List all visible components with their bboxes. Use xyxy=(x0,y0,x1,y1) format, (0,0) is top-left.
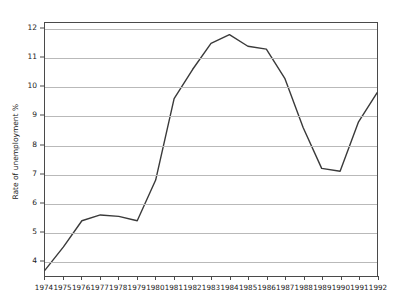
x-tick-label-1988: 1988 xyxy=(295,284,313,291)
x-tick-label-1991: 1991 xyxy=(350,284,368,291)
x-tick-mark-1979 xyxy=(137,276,138,280)
y-tick-label-6: 6 xyxy=(32,199,37,207)
series-polyline-unemployment xyxy=(45,35,377,271)
gridline-y-6 xyxy=(45,204,377,205)
x-tick-label-1987: 1987 xyxy=(276,284,294,291)
x-tick-label-1985: 1985 xyxy=(239,284,257,291)
y-tick-label-5: 5 xyxy=(32,228,37,236)
y-axis: 456789101112 xyxy=(0,0,44,297)
gridline-y-9 xyxy=(45,116,377,117)
x-tick-label-1981: 1981 xyxy=(165,284,183,291)
gridline-y-10 xyxy=(45,87,377,88)
y-tick-label-10: 10 xyxy=(27,82,37,90)
x-tick-mark-1982 xyxy=(192,276,193,280)
x-tick-label-1979: 1979 xyxy=(128,284,146,291)
y-tick-label-8: 8 xyxy=(32,141,37,149)
gridline-y-4 xyxy=(45,262,377,263)
x-tick-mark-1978 xyxy=(118,276,119,280)
x-tick-label-1986: 1986 xyxy=(258,284,276,291)
x-tick-mark-1988 xyxy=(304,276,305,280)
gridline-y-7 xyxy=(45,175,377,176)
y-tick-label-7: 7 xyxy=(32,170,37,178)
y-tick-label-9: 9 xyxy=(32,112,37,120)
x-tick-mark-1981 xyxy=(174,276,175,280)
y-tick-label-12: 12 xyxy=(27,24,37,32)
x-tick-mark-1974 xyxy=(44,276,45,280)
gridline-y-8 xyxy=(45,146,377,147)
gridline-y-12 xyxy=(45,29,377,30)
plot-area xyxy=(44,22,378,276)
x-tick-label-1978: 1978 xyxy=(109,284,127,291)
x-tick-mark-1976 xyxy=(81,276,82,280)
gridline-y-11 xyxy=(45,58,377,59)
x-tick-label-1990: 1990 xyxy=(332,284,350,291)
x-tick-mark-1983 xyxy=(211,276,212,280)
x-tick-mark-1980 xyxy=(155,276,156,280)
x-tick-label-1989: 1989 xyxy=(313,284,331,291)
x-tick-label-1983: 1983 xyxy=(202,284,220,291)
x-tick-label-1980: 1980 xyxy=(146,284,164,291)
x-tick-mark-1987 xyxy=(285,276,286,280)
x-tick-mark-1984 xyxy=(230,276,231,280)
x-tick-mark-1977 xyxy=(100,276,101,280)
y-tick-label-11: 11 xyxy=(27,53,37,61)
y-tick-label-4: 4 xyxy=(32,258,37,266)
x-tick-label-1977: 1977 xyxy=(91,284,109,291)
x-tick-mark-1990 xyxy=(341,276,342,280)
x-tick-mark-1975 xyxy=(63,276,64,280)
chart-figure: 456789101112 Rate of unemployment % 1974… xyxy=(0,0,395,297)
x-tick-mark-1989 xyxy=(322,276,323,280)
x-tick-mark-1992 xyxy=(378,276,379,280)
x-tick-label-1982: 1982 xyxy=(183,284,201,291)
x-tick-mark-1986 xyxy=(267,276,268,280)
x-tick-label-1992: 1992 xyxy=(369,284,387,291)
x-tick-label-1974: 1974 xyxy=(35,284,53,291)
x-tick-label-1976: 1976 xyxy=(72,284,90,291)
x-tick-label-1975: 1975 xyxy=(53,284,71,291)
x-axis: 1974197519761977197819791980198119821983… xyxy=(44,276,378,297)
x-tick-label-1984: 1984 xyxy=(220,284,238,291)
x-tick-mark-1985 xyxy=(248,276,249,280)
y-axis-title: Rate of unemployment % xyxy=(12,82,20,222)
line-series xyxy=(45,23,377,276)
gridline-y-5 xyxy=(45,233,377,234)
x-tick-mark-1991 xyxy=(359,276,360,280)
